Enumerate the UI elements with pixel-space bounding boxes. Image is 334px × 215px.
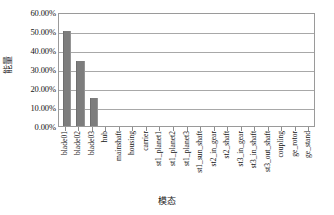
x-axis-label-slot: st3_in_gear xyxy=(235,131,247,193)
x-axis-label-slot: blade03 xyxy=(86,131,98,193)
x-axis-tick-label: st2_shaft xyxy=(223,131,231,158)
x-axis-tick-label: st2_in_gear xyxy=(210,131,218,166)
y-axis-tick-label: 20.00% xyxy=(12,85,56,94)
x-axis-tick-label: st1_planet3 xyxy=(183,131,191,166)
x-axis-tick-label: ge_stand xyxy=(304,131,312,158)
y-axis-tick-label: 10.00% xyxy=(12,104,56,113)
x-axis-tick-label: st1_planet1 xyxy=(155,131,163,166)
x-axis-tick-label: hub xyxy=(101,131,109,142)
bars-layer xyxy=(59,14,314,126)
x-axis-label-slot: blade01 xyxy=(59,131,71,193)
x-axis-label-slot: st3_out_shaft xyxy=(262,131,274,193)
y-axis-tick-label: 40.00% xyxy=(12,47,56,56)
x-axis-label-slot: st2_shaft xyxy=(221,131,233,193)
x-axis-tick-label: blade01 xyxy=(61,131,69,155)
x-axis-tick-label: st1_sun_shaft xyxy=(196,131,204,173)
x-axis-tick-label: blade03 xyxy=(88,131,96,155)
y-axis-tick-labels: 60.00%50.00%40.00%30.00%20.00%10.00%0.00… xyxy=(12,8,56,132)
x-axis-label-slot: blade02 xyxy=(72,131,84,193)
x-axis-label-slot: mainshaft xyxy=(113,131,125,193)
bar xyxy=(90,98,98,126)
x-axis-tick-label: st3_in_gear xyxy=(237,131,245,166)
x-axis-label-slot: st3_in_shaft xyxy=(248,131,260,193)
bar xyxy=(63,31,71,126)
x-axis-label-slot: st2_in_gear xyxy=(208,131,220,193)
y-axis-tick-label: 30.00% xyxy=(12,66,56,75)
x-axis-tick-label: st1_planet2 xyxy=(169,131,177,166)
x-axis-label-slot: st1_planet1 xyxy=(153,131,165,193)
bar-chart: 能量 60.00%50.00%40.00%30.00%20.00%10.00%0… xyxy=(0,0,334,215)
x-axis-tick-label: coupling xyxy=(277,131,285,158)
x-axis-tick-label: housing xyxy=(128,131,136,155)
bar xyxy=(76,61,84,126)
x-axis-label-slot: ge_rotor xyxy=(289,131,301,193)
y-axis-tick-label: 50.00% xyxy=(12,28,56,37)
y-axis-tick-label: 60.00% xyxy=(12,9,56,18)
x-axis-label-slot: carrier xyxy=(140,131,152,193)
x-axis-label-slot: st1_planet2 xyxy=(167,131,179,193)
x-axis-tick-label: mainshaft xyxy=(115,131,123,161)
x-axis-tick-label: ge_rotor xyxy=(291,131,299,157)
x-axis-label-slot: st1_planet3 xyxy=(181,131,193,193)
x-axis-tick-label: st3_out_shaft xyxy=(264,131,272,172)
x-axis-tick-labels: blade01blade02blade03hubmainshafthousing… xyxy=(58,131,315,193)
x-axis-label-slot: st1_sun_shaft xyxy=(194,131,206,193)
x-axis-tick-label: carrier xyxy=(142,131,150,151)
plot-area xyxy=(58,13,315,127)
x-axis-label-slot: ge_stand xyxy=(302,131,314,193)
x-axis-title: 模态 xyxy=(0,196,334,206)
x-axis-label-slot: housing xyxy=(126,131,138,193)
y-axis-tick-label: 0.00% xyxy=(12,123,56,132)
x-axis-tick-label: st3_in_shaft xyxy=(250,131,258,168)
x-axis-label-slot: hub xyxy=(99,131,111,193)
x-axis-tick-label: blade02 xyxy=(74,131,82,155)
x-axis-label-slot: coupling xyxy=(275,131,287,193)
